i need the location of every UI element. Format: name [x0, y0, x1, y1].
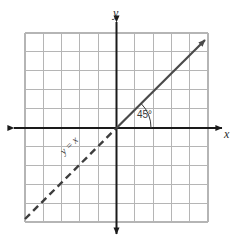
- coordinate-plane: [0, 0, 236, 242]
- graph-figure: y x 45° y = x: [0, 0, 236, 242]
- y-axis-label: y: [113, 7, 118, 19]
- x-axis-label: x: [224, 128, 229, 140]
- angle-label: 45°: [137, 110, 152, 120]
- line-y-equals-x-solid: [117, 40, 206, 128]
